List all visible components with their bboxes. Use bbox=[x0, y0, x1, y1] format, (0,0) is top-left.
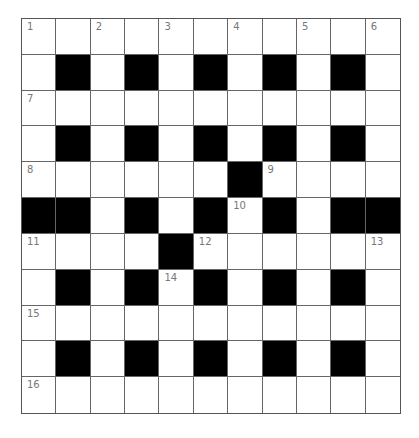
white-cell[interactable] bbox=[159, 306, 193, 342]
white-cell[interactable] bbox=[366, 162, 400, 198]
white-cell[interactable] bbox=[228, 306, 262, 342]
white-cell[interactable] bbox=[22, 270, 56, 306]
white-cell[interactable]: 7 bbox=[22, 91, 56, 127]
white-cell[interactable] bbox=[297, 377, 331, 413]
white-cell[interactable] bbox=[194, 91, 228, 127]
white-cell[interactable] bbox=[159, 126, 193, 162]
white-cell[interactable] bbox=[91, 55, 125, 91]
white-cell[interactable] bbox=[297, 341, 331, 377]
white-cell[interactable]: 16 bbox=[22, 377, 56, 413]
white-cell[interactable] bbox=[263, 377, 297, 413]
black-cell bbox=[56, 341, 90, 377]
clue-number: 2 bbox=[96, 22, 102, 32]
white-cell[interactable] bbox=[366, 126, 400, 162]
white-cell[interactable] bbox=[125, 19, 159, 55]
white-cell[interactable] bbox=[297, 234, 331, 270]
white-cell[interactable]: 2 bbox=[91, 19, 125, 55]
white-cell[interactable] bbox=[331, 91, 365, 127]
white-cell[interactable] bbox=[194, 162, 228, 198]
white-cell[interactable] bbox=[263, 234, 297, 270]
white-cell[interactable] bbox=[228, 126, 262, 162]
white-cell[interactable] bbox=[125, 162, 159, 198]
white-cell[interactable] bbox=[91, 91, 125, 127]
white-cell[interactable] bbox=[331, 162, 365, 198]
white-cell[interactable] bbox=[91, 162, 125, 198]
white-cell[interactable] bbox=[91, 377, 125, 413]
white-cell[interactable] bbox=[56, 234, 90, 270]
white-cell[interactable] bbox=[228, 341, 262, 377]
white-cell[interactable] bbox=[228, 234, 262, 270]
white-cell[interactable] bbox=[91, 306, 125, 342]
white-cell[interactable] bbox=[263, 19, 297, 55]
white-cell[interactable] bbox=[159, 55, 193, 91]
black-cell bbox=[125, 198, 159, 234]
white-cell[interactable] bbox=[366, 91, 400, 127]
white-cell[interactable] bbox=[366, 341, 400, 377]
white-cell[interactable] bbox=[56, 19, 90, 55]
white-cell[interactable] bbox=[56, 377, 90, 413]
white-cell[interactable]: 13 bbox=[366, 234, 400, 270]
white-cell[interactable] bbox=[194, 306, 228, 342]
white-cell[interactable] bbox=[159, 198, 193, 234]
white-cell[interactable] bbox=[159, 91, 193, 127]
white-cell[interactable] bbox=[125, 91, 159, 127]
white-cell[interactable]: 3 bbox=[159, 19, 193, 55]
white-cell[interactable] bbox=[366, 270, 400, 306]
white-cell[interactable] bbox=[91, 270, 125, 306]
white-cell[interactable] bbox=[297, 270, 331, 306]
white-cell[interactable] bbox=[194, 377, 228, 413]
white-cell[interactable]: 11 bbox=[22, 234, 56, 270]
white-cell[interactable] bbox=[91, 126, 125, 162]
white-cell[interactable] bbox=[22, 55, 56, 91]
white-cell[interactable] bbox=[331, 306, 365, 342]
white-cell[interactable] bbox=[297, 126, 331, 162]
white-cell[interactable] bbox=[263, 91, 297, 127]
white-cell[interactable] bbox=[91, 198, 125, 234]
white-cell[interactable] bbox=[331, 377, 365, 413]
white-cell[interactable]: 1 bbox=[22, 19, 56, 55]
black-cell bbox=[194, 270, 228, 306]
white-cell[interactable] bbox=[228, 270, 262, 306]
white-cell[interactable] bbox=[366, 377, 400, 413]
white-cell[interactable]: 8 bbox=[22, 162, 56, 198]
white-cell[interactable] bbox=[297, 198, 331, 234]
black-cell bbox=[331, 55, 365, 91]
white-cell[interactable] bbox=[331, 19, 365, 55]
white-cell[interactable] bbox=[56, 306, 90, 342]
white-cell[interactable] bbox=[91, 234, 125, 270]
white-cell[interactable] bbox=[125, 306, 159, 342]
white-cell[interactable] bbox=[22, 341, 56, 377]
white-cell[interactable] bbox=[56, 91, 90, 127]
black-cell bbox=[56, 126, 90, 162]
white-cell[interactable]: 6 bbox=[366, 19, 400, 55]
white-cell[interactable] bbox=[56, 162, 90, 198]
white-cell[interactable]: 10 bbox=[228, 198, 262, 234]
white-cell[interactable] bbox=[194, 19, 228, 55]
white-cell[interactable]: 5 bbox=[297, 19, 331, 55]
white-cell[interactable] bbox=[228, 91, 262, 127]
clue-number: 11 bbox=[27, 237, 40, 247]
white-cell[interactable] bbox=[228, 377, 262, 413]
white-cell[interactable]: 14 bbox=[159, 270, 193, 306]
white-cell[interactable] bbox=[297, 162, 331, 198]
white-cell[interactable] bbox=[297, 306, 331, 342]
white-cell[interactable]: 12 bbox=[194, 234, 228, 270]
white-cell[interactable] bbox=[297, 91, 331, 127]
white-cell[interactable] bbox=[159, 341, 193, 377]
white-cell[interactable] bbox=[91, 341, 125, 377]
white-cell[interactable] bbox=[159, 162, 193, 198]
white-cell[interactable] bbox=[22, 126, 56, 162]
white-cell[interactable]: 4 bbox=[228, 19, 262, 55]
white-cell[interactable]: 15 bbox=[22, 306, 56, 342]
white-cell[interactable] bbox=[125, 234, 159, 270]
black-cell bbox=[22, 198, 56, 234]
white-cell[interactable] bbox=[331, 234, 365, 270]
white-cell[interactable]: 9 bbox=[263, 162, 297, 198]
white-cell[interactable] bbox=[366, 55, 400, 91]
white-cell[interactable] bbox=[228, 55, 262, 91]
white-cell[interactable] bbox=[297, 55, 331, 91]
white-cell[interactable] bbox=[159, 377, 193, 413]
white-cell[interactable] bbox=[366, 306, 400, 342]
white-cell[interactable] bbox=[125, 377, 159, 413]
white-cell[interactable] bbox=[263, 306, 297, 342]
